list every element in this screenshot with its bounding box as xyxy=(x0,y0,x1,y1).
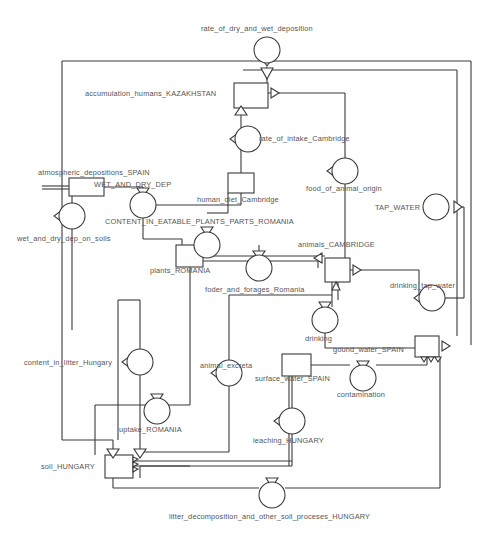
label-wet-and-dry-dep: WET_AND_DRY_DEP xyxy=(94,180,171,189)
flow-content-in-eatable-plants-parts-romania[interactable] xyxy=(130,192,156,218)
label-contamination: contamination xyxy=(337,390,385,399)
label-animals-cambridge: animals_CAMBRIDGE xyxy=(298,240,375,249)
label-litter-decomposition-hungary: litter_decomposition_and_other_soil_proc… xyxy=(169,512,370,521)
flow-leaching-hungary[interactable] xyxy=(279,408,305,434)
label-content-in-eatable-plants-parts-romania: CONTENT_IN_EATABLE_PLANTS_PARTS_ROMANIA xyxy=(105,217,294,226)
flow-rate-of-dry-and-wet-deposition[interactable] xyxy=(254,37,280,63)
label-human-diet-cambridge: human_diet_Cambridge xyxy=(197,195,279,204)
flow-wet-and-dry-dep-on-soils[interactable] xyxy=(59,203,85,229)
flow-food-of-animal-origin[interactable] xyxy=(332,158,358,184)
flow-contamination[interactable] xyxy=(350,365,376,391)
valve-soil-out-3 xyxy=(133,467,138,472)
label-leaching-hungary: leaching_HUNGARY xyxy=(253,436,324,445)
label-uptake-romania: uptake_ROMANIA xyxy=(119,425,182,434)
valve-animals-right-inflow xyxy=(353,265,361,275)
valve-gw-out-2 xyxy=(428,357,434,362)
label-soil-hungary: soil_HUNGARY xyxy=(41,462,95,471)
label-wet-and-dry-dep-on-soils: wet_and_dry_dep_on_soils xyxy=(17,234,111,243)
valve-gw-out-1 xyxy=(421,357,427,362)
label-content-in-litter-hungary: content_in_litter_Hungary xyxy=(24,358,112,367)
valve-gw-right-inflow xyxy=(442,341,450,351)
label-tap-water: TAP_WATER xyxy=(375,203,420,212)
flow-drinking[interactable] xyxy=(312,307,338,333)
label-accumulation-humans-kazakhstan: accumulation_humans_KAZAKHSTAN xyxy=(85,89,216,98)
label-drinking-tap-water: drinking_tap_water xyxy=(390,281,455,290)
stock-accumulation-humans-kazakhstan[interactable] xyxy=(234,83,268,108)
stock-gound-water-spain[interactable] xyxy=(415,336,439,357)
flow-content-in-litter-hungary[interactable] xyxy=(127,349,153,375)
label-food-of-animal-origin: food_of_animal_origin xyxy=(306,184,382,193)
label-drinking: drinking xyxy=(305,334,332,343)
label-rate-of-intake-cambridge: rate_of_intake_Cambridge xyxy=(259,134,350,143)
flow-plants-to-human-diet[interactable] xyxy=(194,232,220,258)
flow-litter-decomposition-hungary[interactable] xyxy=(259,482,285,508)
valve-soil-in-2 xyxy=(134,449,146,458)
stock-soil-hungary[interactable] xyxy=(105,455,133,478)
label-rate-of-dry-and-wet-deposition: rate_of_dry_and_wet_deposition xyxy=(201,24,313,33)
label-foder-and-forages-romania: foder_and_forages_Romania xyxy=(205,285,305,294)
label-gound-water-spain: gound_water_SPAIN xyxy=(333,345,404,354)
label-surface-water-spain: surface_water_SPAIN xyxy=(255,374,330,383)
valve-accum-right-inflow xyxy=(271,88,279,98)
valve-animals-from-excreta xyxy=(332,282,340,290)
label-animal-excreta: animal_excreta xyxy=(200,361,252,370)
stock-human-diet-cambridge[interactable] xyxy=(228,173,254,193)
valve-accum-infeed xyxy=(261,68,273,79)
label-plants-romania: plants_ROMANIA xyxy=(150,266,210,275)
stock-surface-water-spain[interactable] xyxy=(282,354,311,376)
flow-rate-of-intake-cambridge[interactable] xyxy=(235,126,261,152)
stock-animals-cambridge[interactable] xyxy=(325,258,350,282)
valve-tap-water xyxy=(454,201,462,213)
label-atmospheric-depositions-spain: atmospheric_depositions_SPAIN xyxy=(38,168,150,177)
flow-tap-water[interactable] xyxy=(423,194,449,220)
flow-foder-and-forages-romania[interactable] xyxy=(246,255,272,281)
diagram-canvas: rate_of_dry_and_wet_deposition accumulat… xyxy=(0,0,501,545)
flow-uptake-romania[interactable] xyxy=(144,398,170,424)
